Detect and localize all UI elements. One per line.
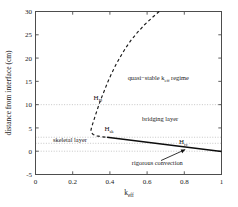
x-tick-label-5: 1 xyxy=(220,178,224,186)
y-axis-title: distance from interface (cm) xyxy=(4,50,13,136)
x-tick-label-2: 0.4 xyxy=(106,178,115,186)
y-tick-label-5: 20 xyxy=(25,55,33,63)
y-tick-label-3: 10 xyxy=(25,101,33,109)
figure-container: 00.20.40.60.81 -5051015202530 quasi−stab… xyxy=(0,0,238,207)
x-tick-label-4: 0.8 xyxy=(180,178,189,186)
x-tick-label-0: 0 xyxy=(34,178,38,186)
x-tick-label-3: 0.6 xyxy=(143,178,152,186)
y-tick-label-6: 25 xyxy=(25,31,33,39)
chart-canvas: 00.20.40.60.81 -5051015202530 quasi−stab… xyxy=(0,0,238,207)
bridging-layer-label: bridging layer xyxy=(142,115,179,122)
y-tick-label-2: 5 xyxy=(29,125,33,133)
x-tick-label-1: 0.2 xyxy=(68,178,77,186)
y-tick-label-1: 0 xyxy=(29,148,33,156)
y-tick-label-0: -5 xyxy=(26,171,32,179)
skeletal-layer-label: skeletal layer xyxy=(53,136,88,143)
y-tick-label-4: 15 xyxy=(25,78,33,86)
y-tick-label-7: 30 xyxy=(25,8,33,16)
rigorous-convection-label: rigorous convection xyxy=(132,159,184,166)
